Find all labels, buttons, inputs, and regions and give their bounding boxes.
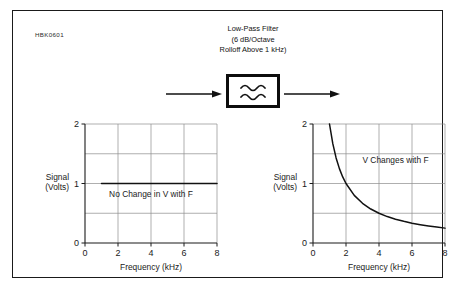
y-axis-title-line-2: (Volts) — [273, 182, 297, 192]
data-series-line — [330, 124, 446, 228]
chart-annotation: No Change in V with F — [109, 189, 193, 199]
x-axis-title: Frequency (kHz) — [120, 262, 182, 272]
x-tick-label: 8 — [214, 248, 219, 258]
x-tick-label: 0 — [310, 248, 315, 258]
x-axis-title: Frequency (kHz) — [348, 262, 410, 272]
chart-annotation: V Changes with F — [362, 155, 428, 165]
y-tick-label: 0 — [302, 238, 307, 248]
two-wave-lowpass-symbol — [238, 80, 268, 106]
x-tick-label: 4 — [148, 248, 153, 258]
x-tick-label: 2 — [343, 248, 348, 258]
arrow-right-icon-output — [284, 89, 340, 99]
x-tick-label: 0 — [82, 248, 87, 258]
figure-border: HBK0601 Low-Pass Filter (6 dB/Octave Rol… — [12, 10, 443, 278]
y-axis-title-line-1: Signal — [274, 172, 297, 182]
filter-caption: Low-Pass Filter (6 dB/Octave Rolloff Abo… — [163, 24, 343, 56]
filter-caption-line-1: Low-Pass Filter — [163, 24, 343, 35]
y-tick-label: 2 — [74, 119, 79, 129]
filter-caption-line-2: (6 dB/Octave — [163, 35, 343, 46]
x-tick-label: 4 — [376, 248, 381, 258]
y-tick-label: 1 — [74, 179, 79, 189]
y-axis-title-line-2: (Volts) — [45, 182, 69, 192]
lowpass-filter-box — [226, 74, 280, 108]
y-axis-title-line-1: Signal — [46, 172, 69, 182]
filter-caption-line-3: Rolloff Above 1 kHz) — [163, 45, 343, 56]
x-tick-label: 6 — [409, 248, 414, 258]
y-tick-label: 0 — [74, 238, 79, 248]
y-tick-label: 2 — [302, 119, 307, 129]
x-tick-label: 2 — [115, 248, 120, 258]
chart-output-signal: 01202468Frequency (kHz)Signal(Volts)V Ch… — [263, 116, 453, 276]
x-tick-label: 8 — [442, 248, 447, 258]
arrow-right-icon-input — [166, 89, 222, 99]
y-tick-label: 1 — [302, 179, 307, 189]
x-tick-label: 6 — [181, 248, 186, 258]
figure-id-code: HBK0601 — [35, 31, 64, 38]
chart-input-signal: 01202468Frequency (kHz)Signal(Volts)No C… — [35, 116, 225, 276]
signal-chain — [163, 74, 343, 108]
